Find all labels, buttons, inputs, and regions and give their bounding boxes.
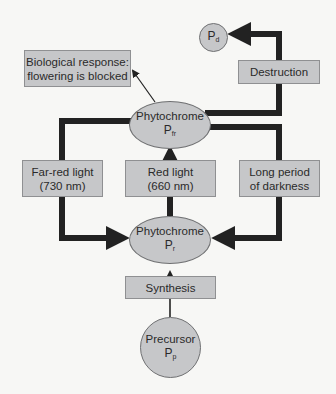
bio-response-line1: Biological response: <box>26 55 129 69</box>
red-light-line2: (660 nm) <box>147 179 193 193</box>
far-red-line1: Far-red light <box>32 165 94 179</box>
box-long-darkness: Long period of darkness <box>239 160 320 197</box>
node-pd: Pd <box>199 23 228 52</box>
node-phytochrome-pr: Phytochrome Pr <box>129 216 211 264</box>
pr-symbol: Pr <box>165 238 175 256</box>
synthesis-label: Synthesis <box>146 281 196 295</box>
bio-response-line2: flowering is blocked <box>27 69 127 83</box>
red-light-line1: Red light <box>148 165 193 179</box>
box-synthesis: Synthesis <box>125 276 216 299</box>
precursor-symbol: Pp <box>165 346 177 364</box>
darkness-line1: Long period <box>249 165 310 179</box>
pd-symbol: Pd <box>208 29 220 47</box>
darkness-line2: of darkness <box>250 179 309 193</box>
precursor-label: Precursor <box>146 332 196 346</box>
box-biological-response: Biological response: flowering is blocke… <box>24 50 131 87</box>
pr-label: Phytochrome <box>136 224 204 238</box>
box-red-light: Red light (660 nm) <box>125 160 216 197</box>
box-destruction: Destruction <box>238 60 320 84</box>
destruction-label: Destruction <box>250 65 308 79</box>
node-phytochrome-pfr: Phytochrome Pfr <box>129 101 211 149</box>
box-far-red-light: Far-red light (730 nm) <box>22 160 103 197</box>
arrow-pfr-to-response <box>133 71 155 102</box>
pfr-label: Phytochrome <box>136 109 204 123</box>
pfr-symbol: Pfr <box>164 123 176 141</box>
far-red-line2: (730 nm) <box>39 179 85 193</box>
node-precursor: Precursor Pp <box>140 317 201 378</box>
